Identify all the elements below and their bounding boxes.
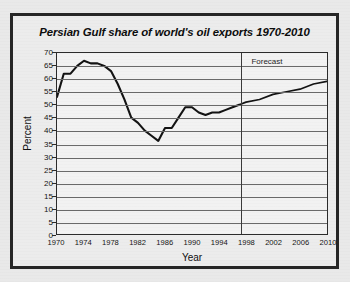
series-svg bbox=[57, 53, 327, 234]
x-tick-label: 1970 bbox=[48, 238, 65, 247]
gridline bbox=[57, 223, 327, 224]
gridline bbox=[57, 92, 327, 93]
forecast-divider-line bbox=[241, 53, 242, 234]
historical-line bbox=[57, 61, 239, 141]
x-tick-label: 1982 bbox=[129, 238, 146, 247]
y-tick-mark bbox=[52, 104, 56, 105]
x-axis-tick-labels: 1970197419781982198619901994199820022006… bbox=[56, 238, 328, 250]
x-tick-label: 1978 bbox=[102, 238, 119, 247]
gridline bbox=[57, 171, 327, 172]
y-tick-mark bbox=[52, 130, 56, 131]
plot-container: 0510152025303540455055606570 Percent For… bbox=[13, 16, 342, 272]
x-tick-label: 1998 bbox=[238, 238, 255, 247]
y-tick-mark bbox=[52, 209, 56, 210]
y-tick-mark bbox=[52, 78, 56, 79]
y-tick-mark bbox=[52, 183, 56, 184]
x-tick-label: 2006 bbox=[292, 238, 309, 247]
gridline bbox=[57, 184, 327, 185]
y-tick-mark bbox=[52, 235, 56, 236]
y-axis-tick-labels: 0510152025303540455055606570 bbox=[31, 52, 53, 235]
gridline bbox=[57, 118, 327, 119]
forecast-annotation-label: Forecast bbox=[251, 57, 282, 66]
chart-frame: Persian Gulf share of world's oil export… bbox=[10, 13, 339, 269]
y-tick-mark bbox=[52, 196, 56, 197]
y-tick-mark bbox=[52, 157, 56, 158]
x-tick-label: 1986 bbox=[156, 238, 173, 247]
gridline bbox=[57, 79, 327, 80]
figure-page: Persian Gulf share of world's oil export… bbox=[0, 0, 350, 282]
x-tick-label: 1994 bbox=[211, 238, 228, 247]
y-tick-mark bbox=[52, 65, 56, 66]
gridline bbox=[57, 66, 327, 67]
y-tick-mark bbox=[52, 91, 56, 92]
x-tick-label: 2002 bbox=[265, 238, 282, 247]
x-axis-label: Year bbox=[56, 252, 328, 263]
x-tick-label: 1974 bbox=[75, 238, 92, 247]
y-tick-mark bbox=[52, 52, 56, 53]
gridline bbox=[57, 105, 327, 106]
gridline bbox=[57, 131, 327, 132]
y-tick-mark bbox=[52, 222, 56, 223]
gridline bbox=[57, 210, 327, 211]
y-tick-mark bbox=[52, 117, 56, 118]
plot-area: Forecast bbox=[56, 52, 328, 235]
x-tick-label: 1990 bbox=[184, 238, 201, 247]
gridline bbox=[57, 145, 327, 146]
x-tick-label: 2010 bbox=[320, 238, 337, 247]
y-axis-label: Percent bbox=[22, 99, 33, 169]
gridline bbox=[57, 158, 327, 159]
gridline bbox=[57, 197, 327, 198]
y-tick-mark bbox=[52, 144, 56, 145]
y-tick-mark bbox=[52, 170, 56, 171]
